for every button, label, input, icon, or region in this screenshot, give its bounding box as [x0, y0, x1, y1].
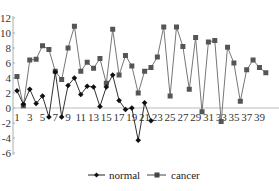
data-point — [27, 86, 33, 92]
data-point — [155, 55, 160, 60]
x-tick-label: 17 — [114, 111, 126, 123]
data-point — [110, 27, 115, 32]
data-point — [91, 84, 97, 90]
data-point — [97, 56, 102, 61]
x-tick-label: 1 — [14, 111, 20, 123]
data-point — [136, 91, 141, 96]
y-tick-label: 0 — [6, 102, 12, 114]
y-tick-label: -2 — [2, 117, 11, 129]
y-tick-label: 4 — [6, 72, 12, 84]
data-point — [123, 53, 128, 58]
data-point — [200, 109, 205, 114]
data-point — [219, 119, 224, 124]
x-axis: 13579111315171921232527293133353739 — [13, 108, 279, 123]
square-marker-icon — [155, 173, 160, 178]
data-point — [129, 64, 134, 69]
data-point — [40, 43, 45, 48]
y-tick-label: -6 — [2, 147, 12, 159]
data-point — [225, 45, 230, 50]
y-tick-label: -4 — [2, 132, 12, 144]
data-point — [148, 65, 153, 70]
x-tick-label: 27 — [177, 111, 189, 123]
data-point — [238, 99, 243, 104]
data-point — [251, 58, 256, 63]
data-point — [129, 105, 135, 111]
data-point — [263, 70, 268, 75]
data-point — [46, 47, 51, 52]
y-tick-label: 8 — [6, 42, 12, 54]
data-point — [59, 114, 65, 120]
data-point — [180, 44, 185, 49]
x-tick-label: 13 — [88, 111, 100, 123]
x-tick-label: 23 — [152, 111, 164, 123]
x-tick-label: 37 — [241, 111, 253, 123]
data-point — [206, 40, 211, 45]
data-point — [91, 66, 96, 71]
y-tick-label: 10 — [0, 27, 12, 39]
x-tick-label: 3 — [27, 111, 33, 123]
data-point — [85, 60, 90, 65]
data-point — [161, 25, 166, 30]
x-tick-label: 31 — [203, 111, 214, 123]
data-point — [34, 57, 39, 62]
y-tick-label: 12 — [0, 12, 11, 24]
data-point — [257, 65, 262, 70]
data-point — [168, 94, 173, 99]
data-point — [117, 73, 122, 78]
data-point — [142, 100, 148, 106]
x-tick-label: 7 — [53, 111, 59, 123]
legend-label-normal: normal — [109, 169, 140, 181]
legend-item-cancer[interactable]: cancer — [147, 169, 200, 181]
legend-label-cancer: cancer — [171, 169, 200, 181]
data-point — [15, 74, 20, 79]
data-point — [212, 38, 217, 43]
data-point — [72, 24, 77, 29]
series-normal — [14, 69, 154, 143]
data-point — [27, 58, 32, 63]
data-point — [110, 72, 116, 78]
data-point — [14, 88, 20, 94]
y-tick-label: 2 — [6, 87, 12, 99]
x-tick-label: 11 — [76, 111, 87, 123]
line-chart: 121086420-2-4-6 135791113151719212325272… — [0, 0, 279, 191]
diamond-marker-icon — [94, 173, 99, 178]
x-tick-label: 5 — [40, 111, 46, 123]
x-tick-label: 25 — [165, 111, 177, 123]
data-point — [66, 46, 71, 51]
data-point — [193, 35, 198, 40]
y-tick-label: 6 — [6, 57, 12, 69]
legend-item-normal[interactable]: normal — [88, 169, 140, 181]
y-axis: 121086420-2-4-6 — [0, 12, 15, 159]
data-point — [231, 61, 236, 66]
data-point — [46, 114, 52, 120]
data-point — [187, 87, 192, 92]
x-tick-label: 35 — [228, 111, 240, 123]
x-tick-label: 15 — [101, 111, 113, 123]
legend: normal cancer — [88, 169, 200, 181]
data-point — [78, 69, 83, 74]
data-point — [244, 67, 249, 72]
x-tick-label: 39 — [254, 111, 266, 123]
series-layer — [14, 24, 268, 143]
data-point — [142, 69, 147, 74]
data-point — [97, 104, 103, 110]
data-point — [59, 77, 64, 82]
data-point — [174, 25, 179, 30]
x-tick-label: 9 — [65, 111, 71, 123]
data-point — [135, 137, 141, 143]
series-cancer — [15, 24, 269, 124]
x-tick-label: 19 — [126, 111, 138, 123]
